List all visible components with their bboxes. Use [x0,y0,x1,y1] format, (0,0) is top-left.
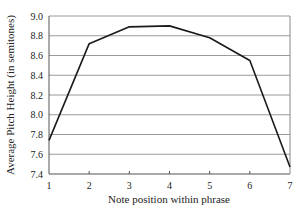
y-tick-label: 7.4 [31,169,44,180]
y-tick-label: 8.2 [31,90,44,101]
x-tick-label: 5 [207,180,212,191]
y-tick-label: 8.0 [31,109,44,120]
horizontal-gridlines [49,16,290,154]
x-tick-label: 4 [167,180,172,191]
y-tick-label: 8.4 [31,70,44,81]
y-tick-label: 8.8 [31,30,44,41]
x-tick-label: 1 [47,180,52,191]
line-chart: 7.47.67.88.08.28.48.68.89.0 1234567 Note… [0,0,305,214]
x-axis-title: Note position within phrase [108,193,230,205]
y-axis-tick-labels: 7.47.67.88.08.28.48.68.89.0 [31,11,44,180]
y-tick-label: 7.8 [31,129,44,140]
x-tick-label: 6 [247,180,252,191]
y-tick-label: 9.0 [31,11,44,22]
y-tick-label: 8.6 [31,50,44,61]
data-series-line [49,26,290,167]
x-tick-label: 2 [87,180,92,191]
x-tick-label: 7 [288,180,293,191]
y-axis-title: Average Pitch Height (in semitones) [4,15,17,175]
y-tick-label: 7.6 [31,149,44,160]
x-tick-label: 3 [127,180,132,191]
